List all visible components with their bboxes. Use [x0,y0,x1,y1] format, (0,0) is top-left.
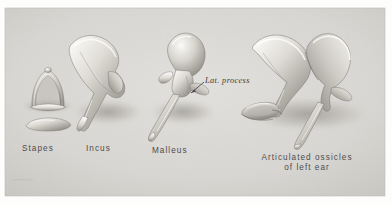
artist-signature: •••••••• [12,176,70,185]
ossicles-plate-figure: Stapes Incus Malleus Articulated ossicle… [0,0,392,204]
plate-grain-overlay [5,8,385,196]
annotation-lat-process: Lat. process [205,76,250,85]
plate-illustration [0,0,392,204]
